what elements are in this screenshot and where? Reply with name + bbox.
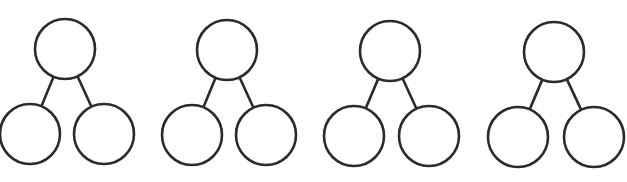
- number-bonds-diagram: [0, 0, 627, 182]
- connector-left: [530, 80, 543, 110]
- connector-left: [366, 79, 379, 109]
- number-bond-3: [324, 21, 459, 166]
- part-circle-right: [74, 104, 134, 164]
- connector-right: [567, 79, 581, 110]
- part-circle-left: [0, 104, 60, 164]
- connector-right: [403, 78, 417, 108]
- number-bond-2: [162, 20, 296, 165]
- whole-circle: [35, 19, 95, 79]
- connector-right: [78, 76, 92, 106]
- number-bond-4: [488, 22, 624, 167]
- part-circle-left: [488, 107, 548, 167]
- number-bond-1: [0, 19, 134, 164]
- connector-right: [240, 77, 254, 107]
- part-circle-left: [162, 105, 222, 165]
- connector-left: [41, 77, 53, 107]
- connector-left: [203, 78, 215, 108]
- part-circle-right: [236, 105, 296, 165]
- whole-circle: [524, 22, 584, 82]
- part-circle-left: [324, 106, 384, 166]
- part-circle-right: [564, 107, 624, 167]
- whole-circle: [197, 20, 257, 80]
- whole-circle: [360, 21, 420, 81]
- part-circle-right: [399, 106, 459, 166]
